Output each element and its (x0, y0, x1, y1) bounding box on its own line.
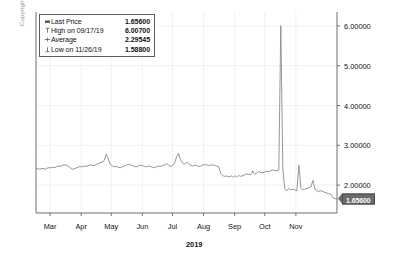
bloomberg-price-chart: Copyright© Bloomberg Finance L.P. Last P… (0, 0, 402, 264)
price-tag-value: 1.65600 (342, 193, 375, 204)
last-price-tag: 1.65600 (338, 193, 375, 204)
square-marker-icon (43, 18, 51, 25)
legend-row-last-price: Last Price 1.65600 (43, 17, 150, 26)
x-tick-label: Sep (228, 222, 241, 231)
x-tick-label: Mar (44, 222, 57, 231)
y-tick-label: 4.00000 (344, 101, 371, 110)
average-cross-marker-icon (43, 36, 51, 43)
x-tick-label: Jun (136, 222, 148, 231)
legend-value-last-price: 1.65600 (114, 18, 150, 25)
legend-label-high: High on 09/17/19 (51, 27, 114, 34)
low-tick-marker-icon (43, 46, 51, 53)
legend-label-average: Average (51, 36, 114, 43)
legend-label-last-price: Last Price (51, 18, 114, 25)
x-tick-label: Aug (197, 222, 210, 231)
legend-row-low: Low on 11/26/19 1.58800 (43, 45, 150, 54)
x-tick-label: May (104, 222, 118, 231)
high-tick-marker-icon (43, 27, 51, 34)
legend-value-high: 6.00700 (114, 27, 150, 34)
y-tick-label: 2.00000 (344, 181, 371, 190)
x-tick-label: Oct (259, 222, 271, 231)
y-tick-label: 3.00000 (344, 141, 371, 150)
x-tick-label: Apr (75, 222, 87, 231)
x-axis-title: 2019 (186, 240, 202, 249)
legend-value-low: 1.58800 (114, 46, 150, 53)
y-tick-label: 5.00000 (344, 61, 371, 70)
x-tick-label: Jul (168, 222, 177, 231)
legend-label-low: Low on 11/26/19 (51, 46, 114, 53)
chart-legend: Last Price 1.65600 High on 09/17/19 6.00… (39, 14, 155, 58)
y-tick-label: 6.00000 (344, 21, 371, 30)
x-tick-label: Nov (289, 222, 302, 231)
legend-value-average: 2.29545 (114, 36, 150, 43)
legend-row-high: High on 09/17/19 6.00700 (43, 26, 150, 35)
legend-row-average: Average 2.29545 (43, 35, 150, 44)
